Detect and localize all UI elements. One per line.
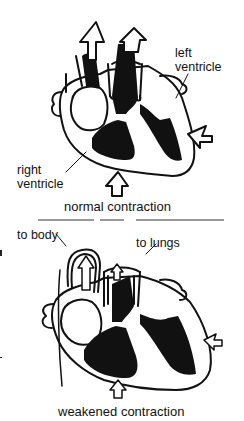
right-ventricle-label-line1: right: [17, 164, 41, 177]
left-ventricle-label-line1: left: [175, 47, 192, 60]
scan-artifact: [0, 357, 2, 358]
weakened-contraction-caption: weakened contraction: [58, 404, 184, 419]
to-body-label: to body: [17, 229, 58, 242]
to-lungs-label: to lungs: [136, 237, 180, 250]
left-ventricle-label-line2: ventricle: [175, 61, 222, 74]
right-ventricle-label-line2: ventricle: [17, 178, 64, 191]
scan-artifact: [0, 250, 2, 256]
